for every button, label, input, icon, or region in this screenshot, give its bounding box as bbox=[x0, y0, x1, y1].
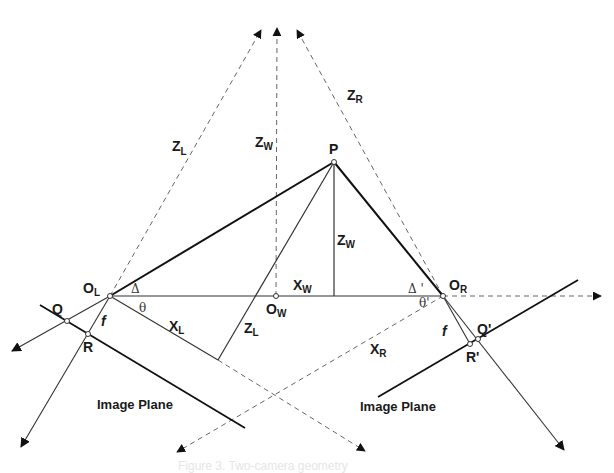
z-left-axis bbox=[110, 30, 261, 296]
point-ow bbox=[274, 294, 279, 299]
label-f-right: f bbox=[442, 323, 448, 339]
label-right-image-plane: Image Plane bbox=[360, 399, 436, 414]
point-markers bbox=[65, 160, 481, 347]
x-left-axis-extension bbox=[218, 360, 365, 451]
label-zw-top: ZW bbox=[255, 134, 274, 152]
stereo-geometry-diagram: ZL ZW ZR P ZW XW OL OW OR Δ θ Δ ' θ' XL … bbox=[0, 0, 614, 473]
label-or: OR bbox=[449, 277, 468, 295]
ray-q-prime bbox=[443, 296, 564, 450]
right-camera-rays bbox=[443, 296, 564, 450]
label-zr-top: ZR bbox=[347, 87, 364, 105]
point-or bbox=[441, 294, 446, 299]
z-world-axis bbox=[276, 28, 277, 296]
triangle bbox=[110, 162, 443, 360]
point-r bbox=[86, 332, 91, 337]
point-r-prime bbox=[468, 342, 473, 347]
x-right-axis bbox=[177, 296, 443, 452]
point-ol bbox=[108, 294, 113, 299]
label-zw-mid: ZW bbox=[337, 232, 356, 250]
label-ol: OL bbox=[83, 280, 100, 298]
ray-ol-to-p bbox=[110, 162, 334, 296]
label-theta-right: θ' bbox=[419, 296, 430, 310]
label-p: P bbox=[329, 141, 338, 157]
label-delta-right: Δ ' bbox=[408, 282, 424, 296]
label-xr: XR bbox=[370, 341, 387, 359]
label-ow: OW bbox=[266, 301, 287, 319]
left-camera-rays bbox=[12, 296, 110, 447]
point-p bbox=[332, 160, 337, 165]
point-q-prime bbox=[476, 337, 481, 342]
label-q-prime: Q' bbox=[477, 321, 491, 337]
label-zl-top: ZL bbox=[172, 138, 187, 157]
figure-caption: Figure 3. Two-camera geometry bbox=[178, 459, 348, 473]
point-q bbox=[65, 319, 70, 324]
xl-axis bbox=[110, 296, 218, 360]
ray-r-prime bbox=[443, 296, 470, 344]
label-xl: XL bbox=[169, 318, 184, 336]
label-theta-left: θ bbox=[139, 301, 146, 315]
zl-projection bbox=[218, 162, 334, 360]
z-right-axis bbox=[297, 30, 443, 296]
label-q: Q bbox=[52, 301, 63, 317]
label-zl-bottom: ZL bbox=[244, 320, 259, 338]
ray-or-to-p bbox=[334, 162, 443, 296]
label-r-prime: R' bbox=[466, 349, 479, 365]
label-delta-left: Δ bbox=[131, 282, 140, 296]
label-xw: XW bbox=[293, 277, 312, 295]
label-left-image-plane: Image Plane bbox=[97, 397, 173, 412]
label-f-left: f bbox=[101, 313, 107, 329]
label-r: R bbox=[83, 339, 93, 355]
